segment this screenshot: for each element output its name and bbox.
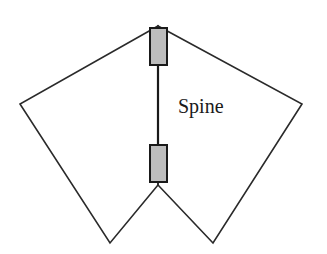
left-wing [20,26,158,243]
bottom-block [150,145,167,182]
right-wing [158,26,302,243]
top-block [150,28,167,65]
spine-diagram [0,0,327,254]
spine-label: Spine [178,95,224,118]
